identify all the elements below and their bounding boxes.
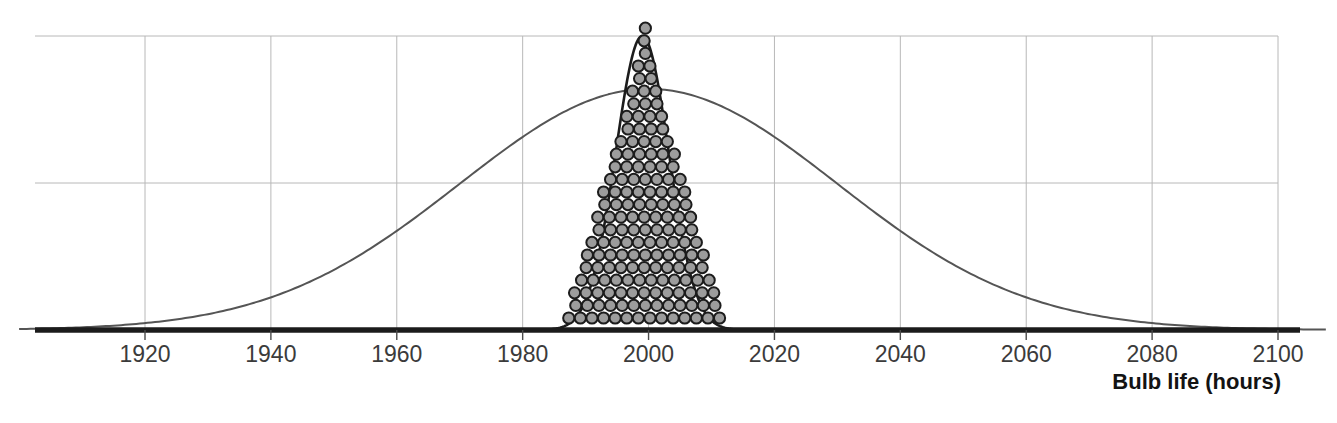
dotplot-dot	[598, 312, 609, 323]
x-axis-tick-label-1960: 1960	[371, 343, 422, 366]
dotplot-dot	[628, 98, 639, 109]
dotplot-dot	[650, 287, 661, 298]
dotplot-dot	[633, 161, 644, 172]
dotplot-dot	[621, 161, 632, 172]
dotplot-dot	[669, 199, 680, 210]
dotplot-dot	[650, 136, 661, 147]
dotplot-dot	[708, 287, 719, 298]
dotplot-dot	[640, 23, 651, 34]
dotplot-dot	[615, 287, 626, 298]
dotplot-dot	[610, 186, 621, 197]
dotplot-dot	[611, 149, 622, 160]
dotplot-dot	[634, 199, 645, 210]
dotplot-dot	[644, 312, 655, 323]
dotplot-dot	[634, 123, 645, 134]
dotplot-dot	[610, 312, 621, 323]
dotplot-dot	[644, 111, 655, 122]
dotplot-dot	[680, 275, 691, 286]
dotplot-dot	[639, 35, 650, 46]
dotplot-dot	[593, 300, 604, 311]
dotplot-dot	[662, 212, 673, 223]
dotplot-dot	[615, 136, 626, 147]
dotplot-dot	[605, 249, 616, 260]
dotplot-dot	[679, 186, 690, 197]
x-axis-tick-label-1980: 1980	[497, 343, 548, 366]
sample-means-dotplot-group	[563, 23, 725, 324]
dotplot-dot	[605, 300, 616, 311]
dotplot-dot	[656, 111, 667, 122]
dotplot-dot	[640, 174, 651, 185]
dotplot-dot	[646, 149, 657, 160]
dotplot-dot	[646, 73, 657, 84]
dotplot-dot	[651, 249, 662, 260]
dotplot-dot	[685, 287, 696, 298]
dotplot-dot	[586, 237, 597, 248]
dotplot-dot	[702, 312, 713, 323]
x-axis-tick-label-2060: 2060	[1001, 343, 1052, 366]
dotplot-dot	[627, 287, 638, 298]
dotplot-dot	[646, 199, 657, 210]
dotplot-dot	[640, 98, 651, 109]
dotplot-dot	[673, 212, 684, 223]
dotplot-dot	[668, 186, 679, 197]
dotplot-dot	[651, 300, 662, 311]
dotplot-dot	[628, 174, 639, 185]
dotplot-dot	[673, 287, 684, 298]
dotplot-dot	[599, 199, 610, 210]
dotplot-dot	[628, 249, 639, 260]
dotplot-dot	[617, 300, 628, 311]
dotplot-dot	[656, 237, 667, 248]
x-axis-title: Bulb life (hours)	[1112, 371, 1281, 393]
dotplot-dot	[685, 212, 696, 223]
chart-figure: 1920194019601980200020202040206020802100…	[0, 0, 1337, 423]
dotplot-dot	[651, 224, 662, 235]
dotplot-dot	[622, 199, 633, 210]
dotplot-dot	[627, 262, 638, 273]
dotplot-dot	[675, 224, 686, 235]
dotplot-dot	[668, 161, 679, 172]
dotplot-dot	[640, 249, 651, 260]
dotplot-dot	[644, 186, 655, 197]
dotplot-dot	[569, 287, 580, 298]
dotplot-dot	[646, 123, 657, 134]
x-axis-tick-label-2080: 2080	[1127, 343, 1178, 366]
dotplot-dot	[611, 199, 622, 210]
dotplot-dot	[640, 224, 651, 235]
dotplot-dot	[651, 98, 662, 109]
dotplot-dot	[610, 237, 621, 248]
dotplot-dot	[680, 199, 691, 210]
x-axis-tick-label-2000: 2000	[623, 343, 674, 366]
x-axis-tick-label-1920: 1920	[119, 343, 170, 366]
dotplot-dot	[657, 275, 668, 286]
dotplot-dot	[639, 212, 650, 223]
dotplot-dot	[639, 287, 650, 298]
dotplot-dot	[617, 249, 628, 260]
dotplot-dot	[679, 237, 690, 248]
dotplot-dot	[639, 262, 650, 273]
dotplot-dot	[686, 224, 697, 235]
dotplot-dot	[621, 312, 632, 323]
dotplot-dot	[575, 312, 586, 323]
dotplot-dot	[639, 86, 650, 97]
dotplot-dot	[634, 149, 645, 160]
dotplot-dot	[615, 262, 626, 273]
dotplot-dot	[628, 300, 639, 311]
dotplot-dot	[634, 73, 645, 84]
dotplot-dot	[662, 136, 673, 147]
dotplot-dot	[656, 161, 667, 172]
dotplot-dot	[605, 174, 616, 185]
dotplot-dot	[604, 262, 615, 273]
dotplot-dot	[611, 275, 622, 286]
dotplot-dot	[598, 237, 609, 248]
dotplot-dot	[633, 60, 644, 71]
dotplot-dot	[604, 212, 615, 223]
dotplot-dot	[663, 224, 674, 235]
dotplot-dot	[628, 224, 639, 235]
dotplot-dot	[663, 174, 674, 185]
dotplot-dot	[668, 237, 679, 248]
dotplot-dot	[656, 312, 667, 323]
x-axis-tick-label-2040: 2040	[875, 343, 926, 366]
dotplot-dot	[582, 249, 593, 260]
dotplot-dot	[640, 48, 651, 59]
dotplot-dot	[675, 300, 686, 311]
